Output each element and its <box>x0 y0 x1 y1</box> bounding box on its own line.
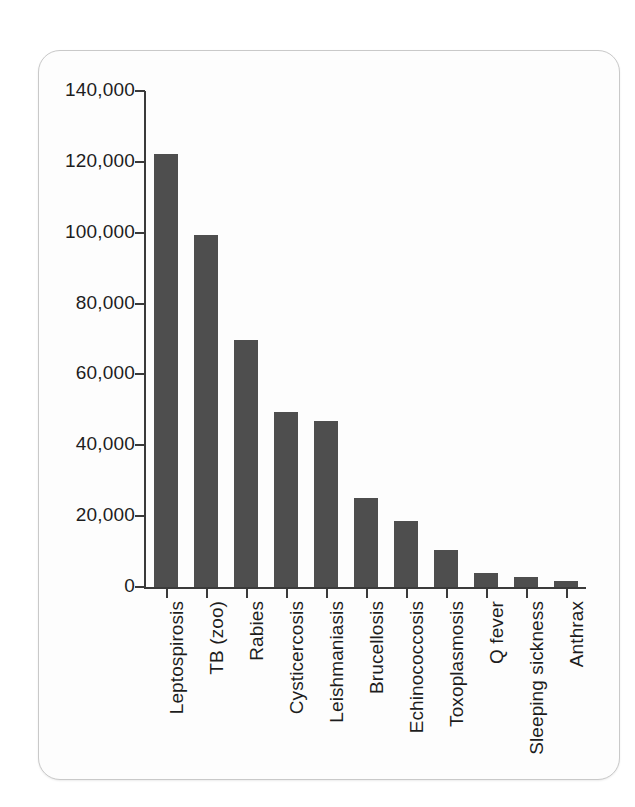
bar <box>154 154 179 587</box>
x-axis-label: Leptospirosis <box>166 601 188 714</box>
bar <box>554 581 579 587</box>
y-axis-tick-label: 20,000 <box>47 504 135 526</box>
x-axis-tick <box>566 589 568 598</box>
x-axis-tick <box>206 589 208 598</box>
bar <box>354 498 379 587</box>
x-axis-label: TB (zoo) <box>206 601 228 675</box>
bar <box>274 412 299 587</box>
y-axis-tick <box>135 90 145 92</box>
x-axis-label: Leishmaniasis <box>326 601 348 723</box>
y-axis-tick <box>135 303 145 305</box>
bar <box>434 550 459 587</box>
y-axis-tick <box>135 232 145 234</box>
x-axis-tick <box>366 589 368 598</box>
bar <box>474 573 499 587</box>
x-axis-label: Sleeping sickness <box>526 601 548 755</box>
x-axis-line <box>144 587 586 589</box>
y-axis-tick-label: 100,000 <box>47 221 135 243</box>
y-axis-tick-label: 60,000 <box>47 362 135 384</box>
bar <box>394 521 419 587</box>
y-axis-tick-label: 0 <box>47 575 135 597</box>
x-axis-label: Rabies <box>246 601 268 661</box>
y-axis-tick <box>135 373 145 375</box>
bar-series <box>146 91 586 587</box>
x-axis-tick <box>286 589 288 598</box>
x-axis-tick <box>486 589 488 598</box>
x-axis-tick <box>246 589 248 598</box>
x-axis-label: Echinococcosis <box>406 601 428 733</box>
bar <box>194 235 219 588</box>
y-axis-tick <box>135 586 145 588</box>
x-axis-tick <box>406 589 408 598</box>
y-axis-tick <box>135 161 145 163</box>
x-axis-label: Cysticercosis <box>286 601 308 714</box>
x-axis-label: Anthrax <box>566 601 588 667</box>
y-axis-tick-label: 80,000 <box>47 292 135 314</box>
x-axis-tick <box>446 589 448 598</box>
x-axis-tick <box>526 589 528 598</box>
y-axis-tick <box>135 515 145 517</box>
bar <box>514 577 539 587</box>
y-axis-tick-label: 140,000 <box>47 79 135 101</box>
bar <box>314 421 339 587</box>
x-axis-labels: LeptospirosisTB (zoo)RabiesCysticercosis… <box>146 601 586 786</box>
x-axis-label: Toxoplasmosis <box>446 601 468 727</box>
x-axis-label: Brucellosis <box>366 601 388 694</box>
chart-card: 140,000120,000100,00080,00060,00040,0002… <box>38 50 620 780</box>
y-axis-tick-label: 40,000 <box>47 433 135 455</box>
x-axis-tick <box>326 589 328 598</box>
y-axis-tick-label: 120,000 <box>47 150 135 172</box>
bar <box>234 340 259 587</box>
x-axis-tick <box>166 589 168 598</box>
y-axis-tick <box>135 444 145 446</box>
x-axis-label: Q fever <box>486 601 508 664</box>
